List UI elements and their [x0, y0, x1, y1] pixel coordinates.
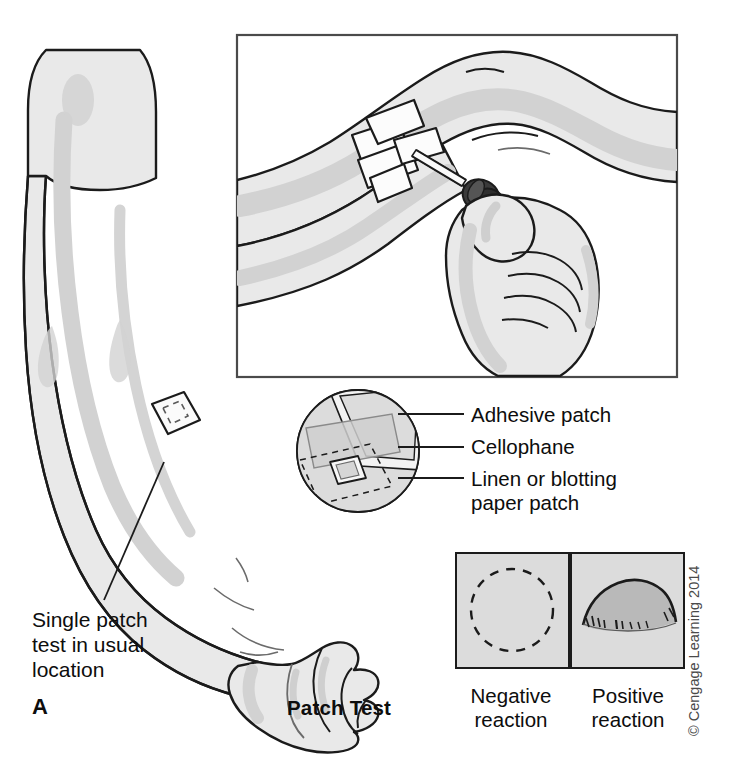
label-linen-patch-line1: Linen or blotting	[471, 467, 617, 490]
figure-patch-test: Single patchtest in usuallocation Adhesi…	[0, 0, 735, 764]
copyright-text: © Cengage Learning 2014	[686, 516, 703, 736]
forearm-patch	[152, 392, 200, 434]
label-positive-reaction: Positivereaction	[572, 684, 684, 732]
inset-hand	[446, 194, 599, 376]
label-negative-reaction-line2: reaction	[475, 708, 548, 731]
label-adhesive-patch: Adhesive patch	[471, 403, 611, 427]
label-linen-or-blotting-paper-patch: Linen or blottingpaper patch	[471, 467, 617, 515]
single-patch-caption-line2: test in usual	[32, 633, 144, 656]
hand-illustration	[228, 628, 378, 752]
single-patch-caption: Single patchtest in usuallocation	[32, 608, 148, 682]
label-positive-reaction-line2: reaction	[592, 708, 665, 731]
copyright-notice: © Cengage Learning 2014	[686, 296, 703, 516]
figure-title: Patch Test	[287, 696, 391, 720]
single-patch-caption-line3: location	[32, 658, 104, 681]
label-positive-reaction-line1: Positive	[592, 684, 664, 707]
label-negative-reaction: Negativereaction	[455, 684, 567, 732]
reaction-panels	[456, 553, 684, 668]
label-cellophane: Cellophane	[471, 435, 575, 459]
label-negative-reaction-line1: Negative	[471, 684, 552, 707]
inset-panel	[237, 35, 677, 377]
magnifier-detail	[296, 382, 464, 513]
label-linen-patch-line2: paper patch	[471, 491, 579, 514]
single-patch-caption-line1: Single patch	[32, 608, 148, 631]
panel-letter: A	[32, 694, 48, 720]
